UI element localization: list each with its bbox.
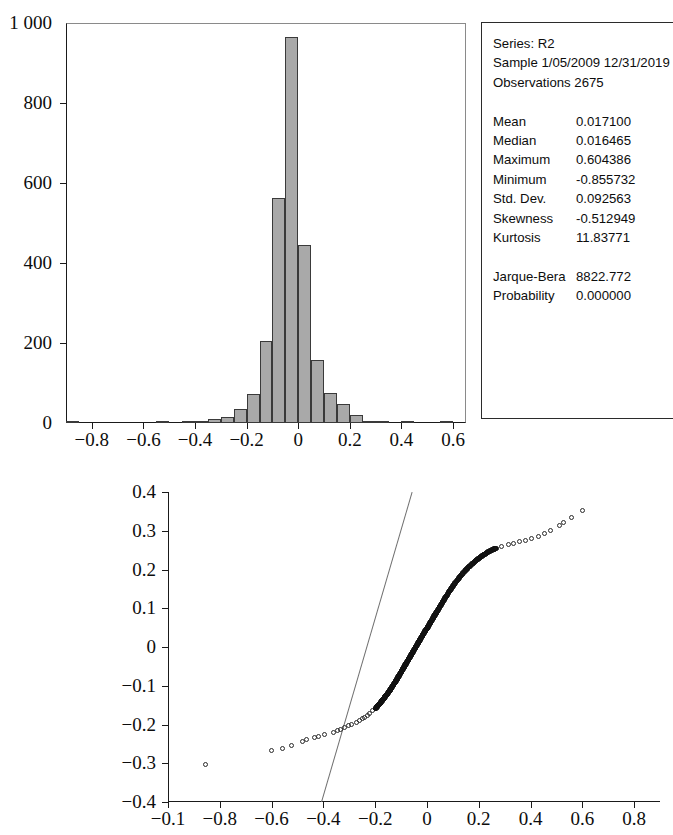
histogram-bar: [350, 415, 363, 423]
histogram-bar: [247, 394, 260, 423]
y-axis-label: 800: [0, 93, 52, 112]
series-name-line: Series: R2: [493, 34, 673, 53]
test-statistic-row: Jarque-Bera8822.772: [493, 267, 673, 286]
qq-data-point: [542, 531, 547, 536]
stat-label: Skewness: [493, 209, 553, 228]
statistic-row: Minimum-0.855732: [493, 170, 673, 189]
histogram-bar: [298, 245, 311, 423]
y-axis-label: 0: [0, 413, 52, 432]
stats-spacer-mid: [493, 247, 673, 266]
qq-y-axis-label: 0.1: [92, 598, 156, 617]
qq-data-point: [517, 539, 522, 544]
y-axis-label: 1 000: [0, 13, 52, 32]
qq-data-point: [322, 732, 327, 737]
stat-label: Std. Dev.: [493, 189, 546, 208]
histogram-bar: [156, 421, 169, 423]
stat-label: Minimum: [493, 170, 546, 189]
stat-label: Maximum: [493, 150, 550, 169]
statistic-row: Maximum0.604386: [493, 150, 673, 169]
stat-value: 0.017100: [576, 112, 631, 131]
stat-label: Mean: [493, 112, 526, 131]
figure-canvas: 02004006008001 000 −0.8−0.6−0.4−0.200.20…: [0, 0, 673, 835]
histogram-bar: [337, 404, 350, 423]
qq-data-point: [316, 734, 321, 739]
stat-value: 0.016465: [576, 131, 631, 150]
histogram-bar: [221, 417, 234, 423]
stat-value: 11.83771: [576, 228, 630, 247]
statistic-row: Median0.016465: [493, 131, 673, 150]
y-axis-label: 600: [0, 173, 52, 192]
stat-label: Probability: [493, 286, 555, 305]
statistic-row: Skewness-0.512949: [493, 209, 673, 228]
qq-data-point: [203, 762, 208, 767]
qq-data-point: [561, 520, 566, 525]
histogram-bar: [272, 198, 285, 423]
qq-data-point: [280, 746, 285, 751]
histogram-bar: [208, 419, 221, 423]
histogram-bar: [66, 421, 79, 423]
qq-plot-chart: −0.4−0.3−0.2−0.100.10.20.30.4 −0.1−0.8−0…: [0, 460, 673, 835]
qq-data-point: [506, 542, 511, 547]
stats-spacer-top: [493, 92, 673, 111]
histogram-bar: [376, 421, 389, 423]
qq-data-point: [499, 544, 504, 549]
stat-value: -0.855732: [576, 170, 635, 189]
stat-value: 0.092563: [576, 189, 631, 208]
histogram-bars: [66, 23, 466, 423]
stat-label: Jarque-Bera: [493, 267, 566, 286]
histogram-bar: [182, 421, 195, 423]
descriptive-statistics-list: Mean0.017100Median0.016465Maximum0.60438…: [493, 112, 673, 248]
histogram-bar: [440, 421, 453, 423]
stat-value: 0.000000: [576, 286, 631, 305]
qq-x-axis-label: 0.8: [604, 809, 664, 828]
histogram-bar: [195, 421, 208, 423]
normality-test-list: Jarque-Bera8822.772Probability0.000000: [493, 267, 673, 306]
histogram-bar: [260, 341, 273, 423]
x-axis-label: 0.6: [423, 430, 483, 449]
stat-label: Median: [493, 131, 536, 150]
qq-data-point: [569, 515, 574, 520]
qq-data-point: [536, 534, 541, 539]
statistic-row: Std. Dev.0.092563: [493, 189, 673, 208]
qq-y-axis-label: 0.2: [92, 560, 156, 579]
qq-y-axis-label: −0.1: [92, 676, 156, 695]
stat-label: Kurtosis: [493, 228, 541, 247]
qq-reference-line: [321, 492, 413, 802]
qq-data-point: [523, 538, 528, 543]
statistic-row: Kurtosis11.83771: [493, 228, 673, 247]
qq-data-point: [529, 536, 534, 541]
qq-y-axis-label: 0: [92, 637, 156, 656]
statistics-content: Series: R2 Sample 1/05/2009 12/31/2019 O…: [493, 34, 673, 418]
histogram-bar: [285, 37, 298, 423]
qq-y-axis-label: 0.4: [92, 482, 156, 501]
statistics-box: Series: R2 Sample 1/05/2009 12/31/2019 O…: [481, 22, 673, 419]
stat-value: 0.604386: [576, 150, 631, 169]
qq-data-point: [269, 748, 274, 753]
histogram-bar: [363, 421, 376, 423]
qq-y-axis-label: −0.2: [92, 715, 156, 734]
qq-data-point: [304, 737, 309, 742]
y-axis-label: 200: [0, 333, 52, 352]
qq-data-point: [548, 528, 553, 533]
sample-range-line: Sample 1/05/2009 12/31/2019: [493, 53, 673, 72]
qq-data-point: [289, 743, 294, 748]
histogram-bar: [324, 393, 337, 423]
stat-value: -0.512949: [576, 209, 635, 228]
histogram-bar: [311, 360, 324, 423]
statistic-row: Mean0.017100: [493, 112, 673, 131]
y-axis-label: 400: [0, 253, 52, 272]
histogram-bar: [401, 421, 414, 423]
stat-value: 8822.772: [576, 267, 631, 286]
qq-y-axis-label: −0.3: [92, 753, 156, 772]
qq-y-axis-label: 0.3: [92, 521, 156, 540]
histogram-chart: 02004006008001 000 −0.8−0.6−0.4−0.200.20…: [0, 0, 480, 460]
qq-scatter-area: [168, 492, 660, 802]
histogram-bar: [234, 409, 247, 423]
qq-data-point: [511, 541, 516, 546]
qq-data-point: [580, 508, 585, 513]
test-statistic-row: Probability0.000000: [493, 286, 673, 305]
observations-line: Observations 2675: [493, 73, 673, 92]
